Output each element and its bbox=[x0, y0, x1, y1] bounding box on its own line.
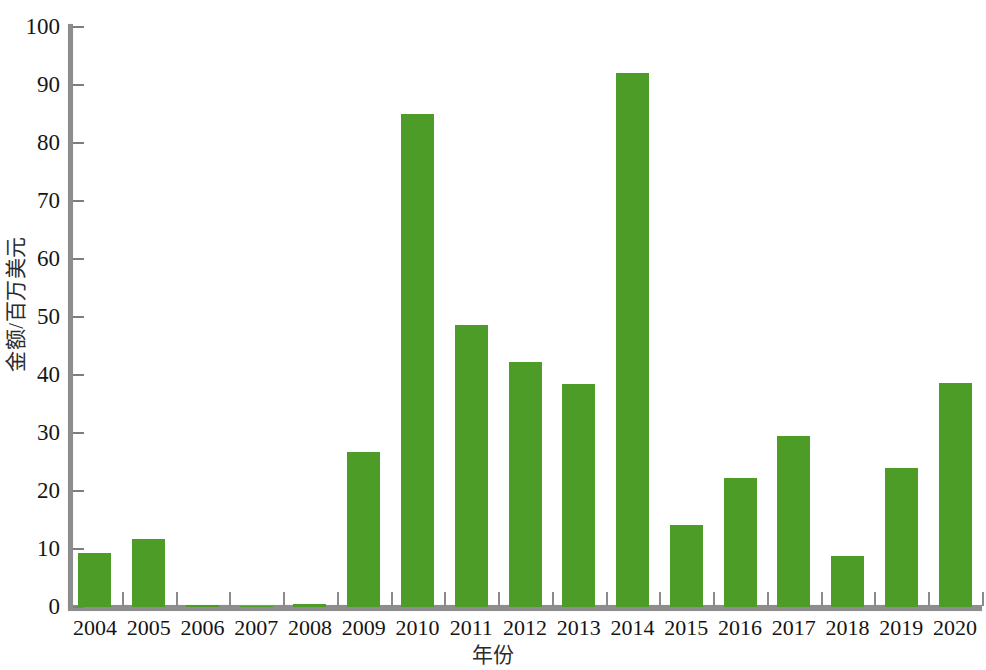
bar bbox=[885, 468, 918, 607]
x-axis-tick bbox=[874, 592, 876, 606]
x-axis-tick bbox=[498, 592, 500, 606]
bar bbox=[670, 525, 703, 607]
bar-chart: 金额/百万美元 0102030405060708090100 200420052… bbox=[0, 0, 986, 670]
bar bbox=[132, 539, 165, 607]
bar bbox=[724, 478, 757, 607]
bar bbox=[939, 383, 972, 607]
bar bbox=[616, 73, 649, 607]
bar bbox=[831, 556, 864, 607]
x-axis-tick-label: 2020 bbox=[920, 617, 986, 639]
x-axis-tick bbox=[982, 592, 984, 606]
x-axis-tick bbox=[68, 592, 70, 606]
bar bbox=[455, 325, 488, 607]
bar bbox=[509, 362, 542, 607]
bar bbox=[347, 452, 380, 607]
x-axis-tick bbox=[283, 592, 285, 606]
x-axis-tick bbox=[122, 592, 124, 606]
bar bbox=[777, 436, 810, 607]
x-axis-tick bbox=[606, 592, 608, 606]
bar bbox=[293, 604, 326, 607]
x-axis-tick bbox=[552, 592, 554, 606]
bar bbox=[401, 114, 434, 607]
bars-layer bbox=[0, 27, 986, 607]
bar bbox=[78, 553, 111, 607]
x-axis-tick bbox=[713, 592, 715, 606]
bar bbox=[240, 606, 273, 608]
x-axis-tick bbox=[821, 592, 823, 606]
x-axis-tick bbox=[659, 592, 661, 606]
x-axis-title: 年份 bbox=[0, 645, 986, 666]
x-axis-tick bbox=[928, 592, 930, 606]
bar bbox=[186, 605, 219, 607]
x-axis-tick bbox=[391, 592, 393, 606]
x-axis-tick bbox=[337, 592, 339, 606]
x-axis-tick bbox=[176, 592, 178, 606]
x-axis-tick bbox=[767, 592, 769, 606]
x-axis-tick bbox=[444, 592, 446, 606]
bar bbox=[562, 384, 595, 607]
x-axis-tick bbox=[229, 592, 231, 606]
